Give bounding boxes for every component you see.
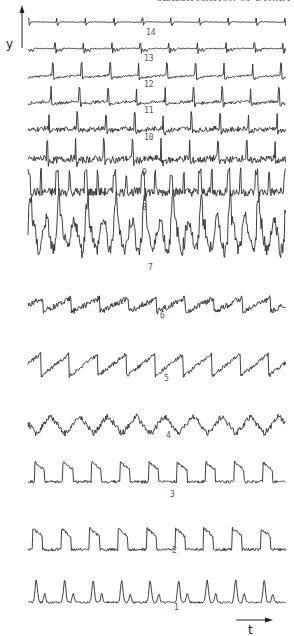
time-series-figure: y t 1413121110987654321 bbox=[0, 0, 294, 636]
trace-4 bbox=[28, 414, 286, 436]
trace-14 bbox=[28, 18, 286, 26]
trace-label-7: 7 bbox=[148, 263, 153, 272]
trace-5 bbox=[28, 352, 286, 377]
trace-8 bbox=[28, 168, 286, 197]
arrow-up-icon bbox=[20, 5, 25, 13]
trace-label-4: 4 bbox=[166, 431, 171, 440]
trace-label-11: 11 bbox=[144, 106, 154, 115]
arrow-right-icon bbox=[265, 618, 273, 623]
trace-9 bbox=[28, 138, 286, 167]
trace-2 bbox=[28, 527, 286, 551]
trace-label-12: 12 bbox=[144, 80, 154, 89]
trace-label-2: 2 bbox=[172, 546, 177, 555]
t-axis: t bbox=[236, 618, 273, 636]
trace-13 bbox=[28, 43, 286, 54]
trace-label-1: 1 bbox=[174, 603, 179, 612]
t-axis-label: t bbox=[248, 623, 253, 636]
trace-stack: 1413121110987654321 bbox=[28, 18, 286, 612]
trace-label-6: 6 bbox=[160, 311, 165, 320]
trace-6 bbox=[28, 296, 286, 314]
y-axis-label: y bbox=[6, 37, 13, 51]
trace-label-14: 14 bbox=[146, 28, 156, 37]
trace-label-10: 10 bbox=[144, 133, 154, 142]
trace-1 bbox=[28, 580, 286, 604]
trace-label-3: 3 bbox=[170, 490, 175, 499]
trace-7 bbox=[28, 188, 286, 257]
trace-label-5: 5 bbox=[164, 374, 169, 383]
trace-11 bbox=[28, 86, 286, 107]
trace-10 bbox=[28, 111, 286, 135]
trace-12 bbox=[28, 62, 286, 80]
trace-3 bbox=[28, 461, 286, 483]
trace-label-13: 13 bbox=[144, 54, 154, 63]
y-axis: y bbox=[6, 5, 25, 51]
